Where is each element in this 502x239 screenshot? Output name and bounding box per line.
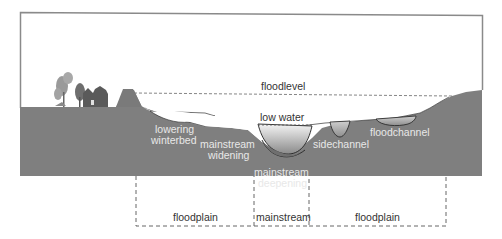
floodchannel-label: floodchannel	[370, 126, 430, 138]
zone-floodplain-right: floodplain	[355, 211, 400, 223]
mainstream-deepening-label-2: deepening	[258, 177, 307, 189]
mainstream-widening-label-2: widening	[207, 149, 250, 161]
zone-mainstream: mainstream	[256, 211, 311, 223]
zone-floodplain-left: floodplain	[173, 211, 218, 223]
river-cross-section-diagram: floodlevel low water lowering winterbed …	[0, 0, 502, 239]
lowering-winterbed-label-2: winterbed	[150, 134, 197, 146]
sidechannel-label: sidechannel	[313, 138, 369, 150]
low-water-label: low water	[260, 111, 305, 123]
floodlevel-label: floodlevel	[261, 80, 305, 92]
